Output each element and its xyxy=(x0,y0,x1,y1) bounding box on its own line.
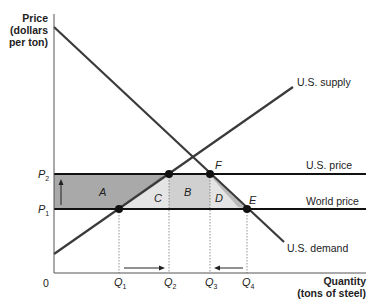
area-a-label: A xyxy=(98,186,106,198)
x-axis-title-2: (tons of steel) xyxy=(297,287,366,299)
q4-label: Q4 xyxy=(242,276,255,290)
tariff-diagram: Price (dollars per ton) Quantity (tons o… xyxy=(0,0,386,303)
world-price-label: World price xyxy=(306,195,359,207)
q2-label: Q2 xyxy=(164,276,177,290)
y-axis-title-2: (dollars xyxy=(10,24,48,36)
x-axis-title-1: Quantity xyxy=(323,275,366,287)
origin-label: 0 xyxy=(43,277,49,289)
area-b-label: B xyxy=(184,186,191,198)
arrowhead-left-icon xyxy=(214,266,220,271)
q1-label: Q1 xyxy=(114,276,127,290)
supply-curve xyxy=(54,87,293,254)
point-e-label: E xyxy=(249,194,257,206)
point-f-label: F xyxy=(215,159,223,171)
point-q1 xyxy=(115,205,123,213)
y-axis-title-3: per ton) xyxy=(9,36,48,48)
area-c-label: C xyxy=(154,192,162,204)
area-d-label: D xyxy=(215,192,223,204)
arrowhead-right-icon xyxy=(159,266,165,271)
us-demand-label: U.S. demand xyxy=(287,242,348,254)
p1-label: P1 xyxy=(38,203,49,217)
point-e xyxy=(243,205,251,213)
q3-label: Q3 xyxy=(205,276,218,290)
us-price-label: U.S. price xyxy=(306,159,352,171)
us-supply-label: U.S. supply xyxy=(297,76,351,88)
p2-label: P2 xyxy=(38,168,49,182)
y-axis-title-1: Price xyxy=(22,12,48,24)
point-f xyxy=(206,170,214,178)
point-q2 xyxy=(165,170,173,178)
